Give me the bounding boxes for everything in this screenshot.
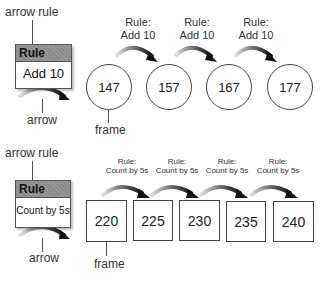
frame-square: 230 — [179, 200, 220, 241]
frame-square: 240 — [273, 201, 314, 242]
arrow-rule-label: arrow rule — [5, 5, 58, 19]
rule-caption: Rule: Add 10 — [231, 16, 281, 41]
arrow-label: arrow — [27, 113, 57, 127]
rule-legend-body: Count by 5s — [16, 198, 70, 216]
legend-arrow-icon-top — [20, 88, 70, 100]
frame-circle: 147 — [86, 64, 132, 110]
rule-arrow-icon — [201, 187, 248, 198]
rule-legend-body: Add 10 — [16, 62, 71, 81]
frame-circle: 177 — [267, 64, 313, 110]
rule-arrow-icon — [152, 187, 199, 198]
rule-arrow-icon — [103, 187, 150, 198]
frame-square: 220 — [86, 200, 127, 242]
rule-caption: Rule: Add 10 — [172, 16, 222, 41]
arrow-label: arrow — [29, 251, 59, 265]
rule-legend-header: Rule — [16, 45, 71, 62]
rule-arrow-icon — [117, 48, 158, 62]
leader-line — [32, 20, 33, 44]
rule-arrow-icon — [176, 48, 217, 62]
leader-line — [106, 241, 107, 256]
rule-arrow-icon — [251, 187, 298, 198]
frame-label: frame — [94, 257, 125, 271]
frame-circle: 157 — [146, 64, 192, 110]
arrow-rule-label: arrow rule — [5, 146, 58, 160]
rule-legend-box: Rule Count by 5s — [15, 180, 71, 228]
leader-line — [108, 109, 109, 123]
frame-square: 225 — [133, 200, 173, 241]
leader-line — [42, 99, 43, 113]
legend-arrow-icon-bottom — [20, 227, 70, 239]
rule-caption: Rule: Add 10 — [113, 16, 163, 41]
frame-circle: 167 — [206, 64, 252, 110]
leader-line — [42, 238, 43, 252]
rule-caption: Rule: Count by 5s — [248, 157, 308, 175]
leader-line — [32, 161, 33, 180]
rule-legend-box: Rule Add 10 — [15, 44, 72, 89]
rule-legend-header: Rule — [16, 181, 70, 198]
frame-square: 235 — [226, 201, 266, 242]
rule-arrow-icon — [236, 48, 277, 62]
frame-label: frame — [95, 123, 126, 137]
